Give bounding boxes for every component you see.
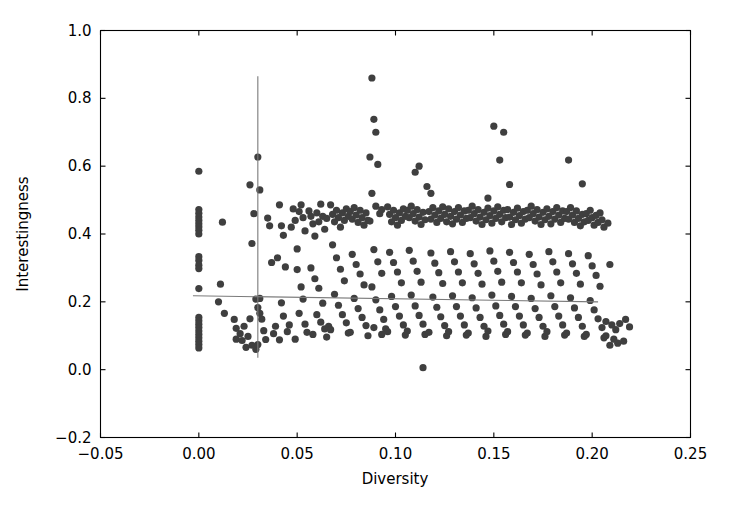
x-tick-label-3: 0.10 — [379, 445, 412, 463]
data-point — [347, 329, 354, 336]
data-point — [478, 281, 485, 288]
data-point — [604, 220, 611, 227]
data-point — [583, 331, 590, 338]
data-point — [423, 183, 430, 190]
data-point — [286, 321, 293, 328]
data-point — [362, 322, 369, 329]
data-point — [437, 313, 444, 320]
data-point — [195, 168, 202, 175]
y-tick-label-4: 0.6 — [68, 157, 92, 175]
data-point — [414, 268, 421, 275]
data-point — [612, 326, 619, 333]
data-point — [368, 74, 375, 81]
data-point — [408, 291, 415, 298]
data-point — [510, 259, 517, 266]
data-point — [569, 260, 576, 267]
data-point — [394, 268, 401, 275]
data-point — [355, 305, 362, 312]
data-point — [195, 344, 202, 351]
data-point — [353, 261, 360, 268]
data-point — [508, 293, 515, 300]
data-point — [221, 310, 228, 317]
data-point — [272, 323, 279, 330]
data-point — [524, 329, 531, 336]
data-point — [579, 180, 586, 187]
data-point — [370, 324, 377, 331]
data-point — [496, 312, 503, 319]
data-point — [349, 251, 356, 258]
data-point — [239, 337, 246, 344]
data-point — [299, 214, 306, 221]
data-point — [362, 209, 369, 216]
y-tick-label-6: 1.0 — [68, 22, 92, 40]
y-tick-label-0: −0.2 — [55, 429, 91, 447]
data-point — [264, 214, 271, 221]
data-point — [585, 252, 592, 259]
x-tick-label-1: 0.00 — [182, 445, 215, 463]
data-point — [329, 241, 336, 248]
data-point — [431, 260, 438, 267]
data-point — [374, 161, 381, 168]
data-point — [195, 230, 202, 237]
data-point — [240, 323, 247, 330]
data-point — [298, 283, 305, 290]
data-point — [246, 315, 253, 322]
data-point — [602, 332, 609, 339]
data-point — [343, 319, 350, 326]
data-point — [280, 312, 287, 319]
data-point — [490, 258, 497, 265]
data-point — [412, 169, 419, 176]
data-point — [626, 323, 633, 330]
data-point — [484, 327, 491, 334]
data-point — [490, 123, 497, 130]
data-point — [301, 227, 308, 234]
data-point — [553, 268, 560, 275]
data-point — [425, 329, 432, 336]
data-point — [520, 321, 527, 328]
data-point — [500, 129, 507, 136]
data-point — [427, 249, 434, 256]
data-point — [504, 328, 511, 335]
data-point — [571, 304, 578, 311]
data-point — [357, 270, 364, 277]
data-point — [593, 272, 600, 279]
data-point — [323, 334, 330, 341]
data-point — [294, 266, 301, 273]
data-point — [376, 306, 383, 313]
data-point — [453, 303, 460, 310]
data-point — [506, 249, 513, 256]
data-point — [606, 261, 613, 268]
data-point — [215, 298, 222, 305]
data-point — [372, 129, 379, 136]
data-point — [449, 292, 456, 299]
data-point — [441, 322, 448, 329]
data-point — [579, 323, 586, 330]
data-point — [333, 254, 340, 261]
data-point — [366, 153, 373, 160]
y-tick-label-5: 0.8 — [68, 89, 92, 107]
x-axis-title: Diversity — [362, 470, 429, 488]
data-point — [620, 338, 627, 345]
data-point — [246, 181, 253, 188]
data-point — [337, 224, 344, 231]
data-point — [292, 217, 299, 224]
data-point — [547, 292, 554, 299]
data-point — [543, 328, 550, 335]
data-point — [516, 312, 523, 319]
data-point — [292, 336, 299, 343]
data-point — [231, 316, 238, 323]
data-point — [577, 281, 584, 288]
data-point — [307, 264, 314, 271]
data-point — [244, 333, 251, 340]
data-point — [392, 303, 399, 310]
data-point — [398, 279, 405, 286]
data-point — [555, 312, 562, 319]
data-point — [386, 249, 393, 256]
data-point — [296, 208, 303, 215]
y-tick-label-3: 0.4 — [68, 225, 92, 243]
x-tick-label-2: 0.05 — [280, 445, 313, 463]
data-point — [484, 194, 491, 201]
data-point — [278, 222, 285, 229]
data-point — [339, 311, 346, 318]
data-point — [298, 201, 305, 208]
